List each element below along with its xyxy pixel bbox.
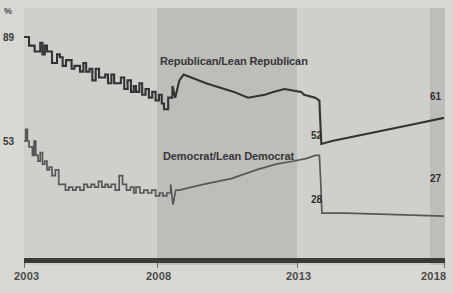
y-axis-unit-label: % — [4, 6, 12, 16]
line-series-republican — [24, 37, 444, 144]
value-label-republican-end: 61 — [430, 91, 441, 102]
x-axis-line — [24, 258, 445, 263]
value-label-republican-break: 52 — [311, 130, 322, 141]
value-label-democrat-end: 27 — [430, 173, 441, 184]
line-series-democrat — [24, 129, 444, 216]
x-tick-2008 — [157, 263, 158, 268]
value-label-democrat-break: 28 — [311, 194, 322, 205]
y-tick-label-53: 53 — [3, 136, 14, 147]
x-tick-label-2018: 2018 — [421, 270, 446, 282]
x-tick-2018 — [444, 263, 445, 268]
chart-figure: % 89 53 2003 2008 2013 2018 Republican/L… — [0, 0, 453, 293]
series-label-democrat: Democrat/Lean Democrat — [163, 150, 294, 162]
chart-plot-area — [0, 0, 453, 293]
x-tick-label-2003: 2003 — [14, 270, 39, 282]
x-tick-2013 — [297, 263, 298, 268]
x-tick-label-2013: 2013 — [286, 270, 311, 282]
x-tick-2003 — [24, 263, 25, 268]
y-tick-label-89: 89 — [3, 32, 14, 43]
x-tick-label-2008: 2008 — [146, 270, 171, 282]
series-label-republican: Republican/Lean Republican — [160, 55, 308, 67]
